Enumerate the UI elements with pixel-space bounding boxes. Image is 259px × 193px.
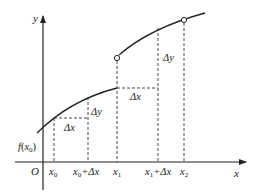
x-tick-x0-dx: x0+Δx [72,166,99,179]
x-axis-label: x [233,167,239,179]
x-tick-x0: x0 [48,166,58,179]
curve-left [37,88,117,133]
dy-label-left: Δy [90,106,102,117]
open-point-x1 [114,55,119,60]
x-tick-x1: x1 [112,166,122,179]
origin-label: O [31,165,39,177]
dx-label-left: Δx [63,122,75,133]
open-point-x2 [181,17,186,22]
x-tick-x2: x2 [179,166,189,179]
x-tick-x1-dx: x1+Δx [144,166,171,179]
y-tick-fx0: f(x0) [18,141,37,154]
y-axis-label: y [32,12,38,24]
dx-label-right: Δx [129,91,141,102]
dashed-guides [54,23,184,162]
curve-right [119,13,205,55]
dy-label-right: Δy [162,52,174,63]
diagram-figure: y x O f(x0) x0 x0+Δx x1 x1+Δx x2 Δx Δy Δ… [0,0,259,193]
